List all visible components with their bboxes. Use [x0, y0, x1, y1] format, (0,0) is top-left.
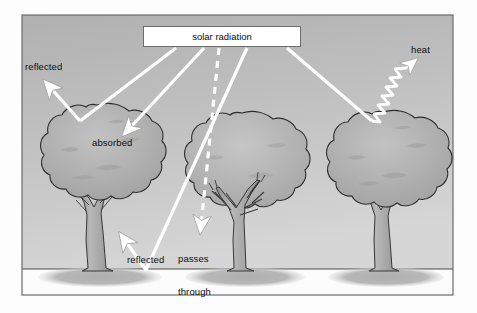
label-reflected-bottom: reflected — [127, 254, 164, 265]
label-passes-line2: through — [178, 286, 211, 297]
left-tree-canopy — [41, 103, 167, 200]
label-passes-line1: passes — [178, 253, 211, 264]
label-passes-through: passes through — [178, 231, 211, 313]
label-reflected-top: reflected — [25, 61, 62, 72]
label-absorbed: absorbed — [92, 137, 132, 148]
label-heat: heat — [411, 44, 430, 55]
solar-radiation-diagram: solar radiation reflected absorbed refle… — [0, 0, 477, 313]
right-tree-canopy — [327, 110, 453, 207]
label-solar-radiation: solar radiation — [143, 26, 301, 47]
